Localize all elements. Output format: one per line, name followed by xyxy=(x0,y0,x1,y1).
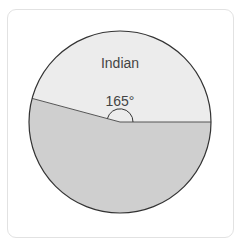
sector-label: Indian xyxy=(101,55,139,71)
angle-label: 165° xyxy=(106,93,135,109)
pie-diagram: Indian 165° xyxy=(0,0,246,249)
